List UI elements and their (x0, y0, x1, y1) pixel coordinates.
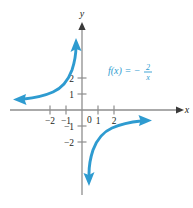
y-tick-label--1: −1 (64, 122, 74, 132)
curve-right-branch (84, 115, 153, 186)
function-label: f(x) = − 2 x (108, 63, 152, 82)
function-label-numerator: 2 (146, 63, 150, 72)
function-graph-canvas: −2 −1 1 2 2 1 −1 −2 0 x y (0, 0, 193, 208)
graph-figure: −2 −1 1 2 2 1 −1 −2 0 x y (0, 0, 193, 208)
function-label-denominator: x (145, 73, 150, 82)
axes-group (10, 22, 184, 195)
y-axis-label: y (79, 8, 85, 19)
y-tick-label-1: 1 (69, 90, 74, 100)
x-tick-label-1: 1 (96, 116, 101, 126)
left-branch-arrow-icon (13, 94, 27, 105)
origin-label: 0 (87, 115, 92, 125)
x-tick-label-2: 2 (112, 116, 117, 126)
x-tick-labels: −2 −1 1 2 (45, 116, 117, 126)
right-branch-path (89, 121, 141, 174)
right-branch-arrow-icon (139, 115, 153, 126)
x-tick-label--2: −2 (45, 116, 55, 126)
x-axis-arrowhead-icon (176, 106, 184, 113)
y-tick-label--2: −2 (64, 138, 74, 148)
function-label-prefix: f(x) = − (108, 65, 140, 77)
left-branch-path (24, 46, 76, 99)
y-axis-arrowhead-icon (78, 22, 85, 30)
x-axis-label: x (184, 104, 190, 115)
